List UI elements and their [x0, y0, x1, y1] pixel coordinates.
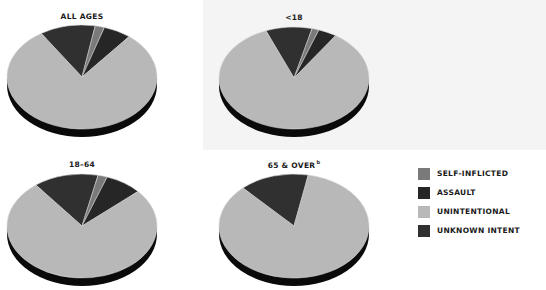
pie-1 — [219, 27, 369, 137]
pie-title-text: 18–64 — [69, 160, 95, 169]
pie-title-18-64: 18–64 — [69, 160, 95, 169]
pie-title-text: 65 & OVER — [268, 161, 316, 170]
pie-0 — [7, 25, 157, 137]
pie-2 — [7, 174, 157, 286]
footnote-marker: b — [316, 159, 320, 165]
legend-label: UNKNOWN INTENT — [437, 226, 520, 235]
legend-swatch-unintentional — [418, 206, 430, 218]
legend-label: SELF-INFLICTED — [437, 169, 508, 178]
pie-title-text: <18 — [285, 13, 303, 22]
legend: SELF-INFLICTED ASSAULT UNINTENTIONAL UNK… — [418, 164, 520, 240]
pie-title-all-ages: ALL AGES — [61, 12, 104, 21]
legend-label: UNINTENTIONAL — [437, 207, 510, 216]
legend-swatch-self-inflicted — [418, 168, 430, 180]
legend-swatch-assault — [418, 187, 430, 199]
legend-item-assault: ASSAULT — [418, 183, 520, 202]
pie-charts — [0, 0, 546, 290]
legend-item-unintentional: UNINTENTIONAL — [418, 202, 520, 221]
legend-label: ASSAULT — [437, 188, 476, 197]
legend-swatch-unknown-intent — [418, 225, 430, 237]
pie-title-under-18: <18 — [285, 13, 303, 22]
pie-title-text: ALL AGES — [61, 12, 104, 21]
legend-item-unknown-intent: UNKNOWN INTENT — [418, 221, 520, 240]
legend-item-self-inflicted: SELF-INFLICTED — [418, 164, 520, 183]
pie-title-65-over: 65 & OVERb — [268, 159, 321, 170]
pie-3 — [219, 174, 369, 286]
